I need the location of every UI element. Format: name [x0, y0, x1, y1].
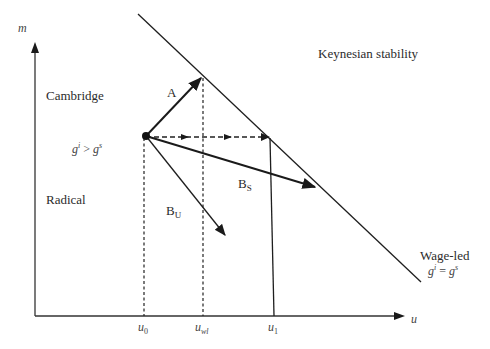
y-axis-arrow-icon	[31, 42, 39, 53]
uwl-tick-label: uwl	[195, 320, 209, 336]
starting-point	[142, 132, 150, 140]
arrow-bs	[146, 136, 315, 187]
dashed-arrow-1-icon	[181, 134, 189, 140]
radical-label: Radical	[46, 192, 86, 207]
wage-led-diagram: m u Cambridge Radical Keynesian stabilit…	[0, 0, 490, 349]
arrow-a-label: A	[167, 85, 177, 100]
u1-vertical-line	[270, 138, 274, 316]
arrow-bs-label: BS	[238, 176, 252, 193]
cambridge-label: Cambridge	[46, 88, 104, 103]
condition-left: gi > gs	[72, 141, 102, 156]
arrow-bu	[146, 136, 225, 235]
x-axis-arrow-icon	[394, 312, 405, 320]
u1-tick-label: u1	[268, 320, 278, 336]
wage-led-label: Wage-led	[420, 248, 470, 263]
y-axis-label: m	[18, 21, 27, 35]
keynesian-stability-label: Keynesian stability	[318, 46, 419, 61]
u0-tick-label: u0	[138, 320, 148, 336]
x-axis-label: u	[411, 312, 417, 326]
dashed-arrow-2-icon	[224, 134, 232, 140]
arrow-bu-label: BU	[166, 203, 182, 220]
condition-line: gi = gs	[428, 263, 458, 278]
